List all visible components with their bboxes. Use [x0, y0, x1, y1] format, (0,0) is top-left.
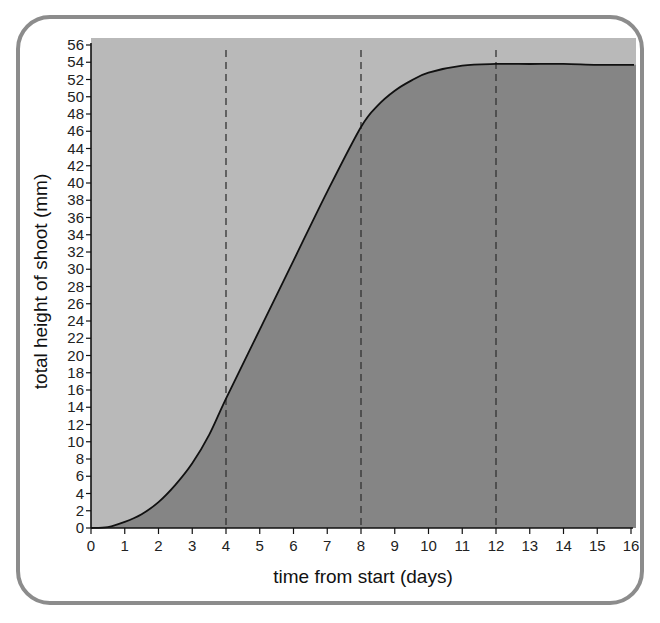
x-tick-label: 9 — [391, 537, 399, 554]
y-tick-label: 42 — [67, 157, 84, 174]
x-axis: 012345678910111213141516 — [87, 528, 640, 554]
y-tick-label: 34 — [67, 226, 84, 243]
y-tick-label: 20 — [67, 347, 84, 364]
x-tick-label: 7 — [323, 537, 331, 554]
y-tick-label: 10 — [67, 433, 84, 450]
y-tick-label: 32 — [67, 243, 84, 260]
x-tick-label: 2 — [154, 537, 162, 554]
x-tick-label: 3 — [188, 537, 196, 554]
y-tick-label: 48 — [67, 105, 84, 122]
x-tick-label: 5 — [256, 537, 264, 554]
y-tick-label: 50 — [67, 88, 84, 105]
y-tick-label: 24 — [67, 312, 84, 329]
x-tick-label: 1 — [121, 537, 129, 554]
x-axis-title: time from start (days) — [273, 566, 452, 587]
y-tick-label: 36 — [67, 209, 84, 226]
y-tick-label: 18 — [67, 364, 84, 381]
y-tick-label: 44 — [67, 140, 84, 157]
y-tick-label: 4 — [76, 485, 84, 502]
x-tick-label: 4 — [222, 537, 230, 554]
x-tick-label: 0 — [87, 537, 95, 554]
y-tick-label: 0 — [76, 519, 84, 536]
y-tick-label: 22 — [67, 329, 84, 346]
x-tick-label: 6 — [289, 537, 297, 554]
growth-chart: 0246810121416182022242628303234363840424… — [0, 0, 660, 623]
y-tick-label: 14 — [67, 398, 84, 415]
y-tick-label: 56 — [67, 36, 84, 53]
y-tick-label: 30 — [67, 260, 84, 277]
y-tick-label: 38 — [67, 191, 84, 208]
y-tick-label: 40 — [67, 174, 84, 191]
y-tick-label: 46 — [67, 122, 84, 139]
y-tick-label: 52 — [67, 71, 84, 88]
x-tick-label: 12 — [488, 537, 505, 554]
x-tick-label: 15 — [589, 537, 606, 554]
y-tick-label: 16 — [67, 381, 84, 398]
y-tick-label: 26 — [67, 295, 84, 312]
y-tick-label: 54 — [67, 53, 84, 70]
x-tick-label: 16 — [623, 537, 640, 554]
x-tick-label: 10 — [420, 537, 437, 554]
y-tick-label: 12 — [67, 416, 84, 433]
y-axis-title: total height of shoot (mm) — [30, 174, 51, 389]
x-tick-label: 11 — [454, 537, 470, 554]
x-tick-label: 14 — [555, 537, 572, 554]
y-tick-label: 8 — [76, 450, 84, 467]
x-tick-label: 8 — [357, 537, 365, 554]
y-tick-label: 28 — [67, 278, 84, 295]
y-tick-label: 6 — [76, 467, 84, 484]
y-tick-label: 2 — [76, 502, 84, 519]
y-axis: 0246810121416182022242628303234363840424… — [67, 36, 91, 536]
x-tick-label: 13 — [521, 537, 538, 554]
